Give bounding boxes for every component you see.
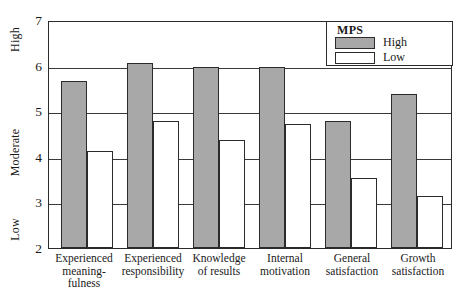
legend-swatch-low — [335, 52, 375, 64]
y-tick-3: 3 — [18, 197, 42, 211]
y-tick-2: 2 — [18, 242, 42, 256]
x-label-3-line-1: Knowledge — [184, 252, 254, 265]
bar-high-3[interactable] — [193, 67, 219, 248]
bar-low-2[interactable] — [153, 121, 179, 248]
bar-low-3[interactable] — [219, 140, 245, 248]
y-tick-7: 7 — [18, 14, 42, 28]
bar-group-1 — [61, 22, 127, 248]
bar-low-4[interactable] — [285, 124, 311, 248]
x-label-1: Experienced meaning- fulness — [48, 252, 120, 290]
x-label-1-line-3: fulness — [48, 277, 120, 290]
bar-low-5[interactable] — [351, 178, 377, 248]
legend-label-high: High — [383, 36, 407, 49]
x-label-3: Knowledge of results — [184, 252, 254, 277]
bar-group-3 — [193, 22, 259, 248]
x-label-4-line-2: motivation — [250, 265, 320, 278]
x-label-5: General satisfaction — [316, 252, 388, 277]
x-label-3-line-2: of results — [184, 265, 254, 278]
bar-high-1[interactable] — [61, 81, 87, 248]
x-label-1-line-2: meaning- — [48, 265, 120, 278]
bar-low-6[interactable] — [417, 196, 443, 248]
x-label-5-line-1: General — [316, 252, 388, 265]
bar-high-5[interactable] — [325, 121, 351, 248]
x-label-4: Internal motivation — [250, 252, 320, 277]
bar-chart: High Moderate Low 7 6 5 4 3 2 — [0, 0, 465, 297]
y-tick-6: 6 — [18, 60, 42, 74]
x-label-5-line-2: satisfaction — [316, 265, 388, 278]
x-label-6: Growth satisfaction — [382, 252, 454, 277]
y-tick-5: 5 — [18, 105, 42, 119]
legend-title: MPS — [337, 23, 363, 38]
bar-high-4[interactable] — [259, 67, 285, 248]
legend: MPS High Low — [326, 21, 453, 66]
y-tick-4: 4 — [18, 151, 42, 165]
x-label-4-line-1: Internal — [250, 252, 320, 265]
x-label-6-line-2: satisfaction — [382, 265, 454, 278]
bar-high-2[interactable] — [127, 63, 153, 248]
x-label-2-line-2: responsibility — [114, 265, 192, 278]
bar-low-1[interactable] — [87, 151, 113, 248]
bar-group-2 — [127, 22, 193, 248]
bar-high-6[interactable] — [391, 94, 417, 248]
legend-swatch-high — [335, 37, 375, 49]
x-label-1-line-1: Experienced — [48, 252, 120, 265]
bar-group-4 — [259, 22, 325, 248]
x-label-6-line-1: Growth — [382, 252, 454, 265]
x-label-2: Experienced responsibility — [114, 252, 192, 277]
legend-label-low: Low — [383, 51, 405, 64]
plot-area: MPS High Low — [48, 21, 452, 249]
x-label-2-line-1: Experienced — [114, 252, 192, 265]
